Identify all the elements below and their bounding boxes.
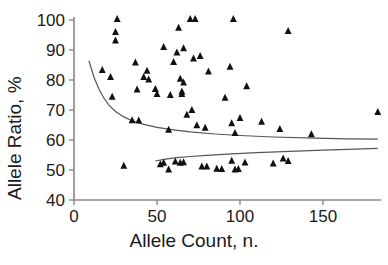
data-point-marker: [180, 44, 187, 51]
data-point-marker: [243, 82, 250, 89]
data-point-marker: [228, 119, 235, 126]
x-tick-label: 50: [148, 207, 167, 226]
data-point-marker: [134, 86, 141, 93]
y-axis-tick-labels: 405060708090100: [37, 11, 65, 210]
data-point-marker: [197, 52, 204, 59]
data-point-marker: [165, 165, 172, 172]
data-point-marker: [202, 124, 209, 131]
data-point-marker: [232, 129, 239, 136]
y-tick-label: 100: [37, 11, 65, 30]
x-axis-tick-labels: 050100150: [69, 207, 337, 226]
data-point-marker: [258, 118, 265, 125]
data-point-marker: [285, 27, 292, 34]
data-point-marker: [152, 85, 159, 92]
y-tick-label: 90: [46, 41, 65, 60]
data-point-marker: [135, 117, 142, 124]
fit-curves: [89, 61, 378, 161]
plot-canvas: 405060708090100 050100150: [0, 0, 388, 265]
data-point-marker: [107, 73, 114, 80]
y-tick-label: 70: [46, 101, 65, 120]
data-point-marker: [140, 73, 147, 80]
data-point-marker: [144, 67, 151, 74]
data-point-marker: [203, 162, 210, 169]
data-point-marker: [112, 36, 119, 43]
data-point-marker: [132, 59, 139, 66]
y-tick-label: 40: [46, 191, 65, 210]
data-point-marker: [120, 162, 127, 169]
data-point-marker: [308, 130, 315, 137]
upper-confidence-curve: [89, 61, 378, 139]
y-axis-group: 405060708090100: [37, 11, 74, 210]
y-tick-label: 50: [46, 161, 65, 180]
data-point-marker: [237, 114, 244, 121]
data-point-marker: [280, 155, 287, 162]
data-point-marker: [190, 54, 197, 61]
y-tick-label: 60: [46, 131, 65, 150]
data-point-marker: [222, 94, 229, 101]
data-point-marker: [112, 28, 119, 35]
x-tick-label: 0: [69, 207, 78, 226]
data-point-marker: [167, 91, 174, 98]
data-point-marker: [230, 15, 237, 22]
data-point-marker: [114, 15, 121, 22]
data-point-marker: [99, 66, 106, 73]
lower-confidence-curve: [155, 148, 377, 161]
x-tick-label: 100: [226, 207, 254, 226]
data-point-markers: [99, 15, 381, 172]
data-point-marker: [160, 43, 167, 50]
data-point-marker: [205, 68, 212, 75]
data-point-marker: [270, 159, 277, 166]
data-point-marker: [193, 121, 200, 128]
y-tick-label: 80: [46, 71, 65, 90]
data-point-marker: [192, 15, 199, 22]
x-axis-title: Allele Count, n.: [0, 230, 388, 252]
x-tick-label: 150: [309, 207, 337, 226]
data-point-marker: [276, 125, 283, 132]
data-point-marker: [175, 24, 182, 31]
data-point-marker: [228, 157, 235, 164]
y-axis-title: Allele Ratio, %: [4, 76, 26, 200]
data-point-marker: [109, 93, 116, 100]
x-axis-group: 050100150: [69, 200, 381, 226]
data-point-marker: [227, 63, 234, 70]
data-point-marker: [242, 159, 249, 166]
data-point-marker: [218, 165, 225, 172]
data-point-marker: [188, 106, 195, 113]
data-point-marker: [374, 108, 381, 115]
scatter-plot-figure: 405060708090100 050100150 Allele Count, …: [0, 0, 388, 265]
data-point-marker: [170, 58, 177, 65]
data-point-marker: [173, 48, 180, 55]
